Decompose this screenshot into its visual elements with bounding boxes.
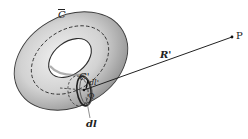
label-c: C [58, 10, 66, 20]
point-q-dot [83, 89, 85, 91]
label-c-overline [58, 9, 65, 10]
label-r-prime: R' [160, 50, 171, 60]
label-dl-prime: dl' [89, 79, 99, 87]
label-q: Q [88, 92, 95, 100]
label-p: P [236, 31, 243, 41]
torus-diagram: C C' dl' Q dl R' P [0, 0, 248, 139]
point-p-dot [231, 36, 234, 39]
label-dl: dl [86, 119, 97, 129]
label-c-prime: C' [79, 72, 89, 82]
torus-body [0, 0, 145, 130]
diagram-canvas [0, 0, 248, 139]
